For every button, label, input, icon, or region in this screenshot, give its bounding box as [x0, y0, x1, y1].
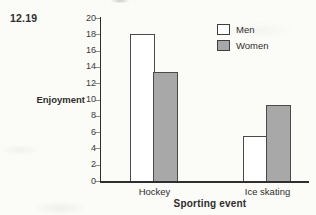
legend-swatch-women [217, 40, 230, 51]
legend-label: Women [236, 40, 269, 51]
legend-label: Men [236, 24, 254, 35]
y-tick-label: 16 [60, 45, 96, 55]
bar-men-hockey [130, 34, 155, 182]
y-tick-label: 0 [60, 176, 96, 186]
x-axis-title: Sporting event [140, 198, 280, 209]
legend-swatch-men [217, 24, 230, 35]
y-tick-label: 20 [60, 13, 96, 23]
y-axis-line [100, 17, 102, 183]
legend: MenWomen [217, 24, 269, 56]
y-tick-label: 6 [60, 127, 96, 137]
y-tick-label: 10 [60, 94, 96, 104]
y-tick-label: 12 [60, 78, 96, 88]
figure-number-label: 12.19 [10, 12, 37, 24]
x-category-label: Ice skating [223, 186, 313, 197]
textbook-figure: 12.19 Enjoyment 02468101214161820HockeyI… [0, 0, 316, 215]
legend-item-women: Women [217, 40, 269, 51]
y-tick-label: 4 [60, 143, 96, 153]
y-tick-label: 8 [60, 110, 96, 120]
bar-men-ice-skating [243, 136, 268, 182]
y-tick-label: 14 [60, 61, 96, 71]
x-axis-line [100, 181, 310, 183]
y-tick-label: 18 [60, 29, 96, 39]
bar-women-hockey [153, 72, 178, 182]
y-tick-label: 2 [60, 159, 96, 169]
bar-women-ice-skating [266, 105, 291, 182]
legend-item-men: Men [217, 24, 269, 35]
x-category-label: Hockey [110, 186, 200, 197]
